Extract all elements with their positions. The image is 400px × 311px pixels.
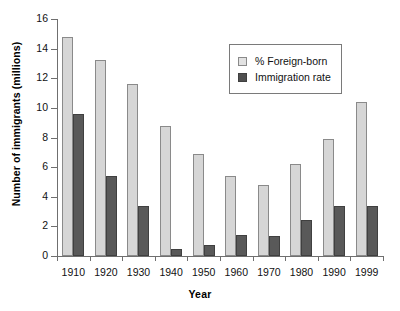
bar-group: [90, 19, 123, 256]
bar-immigration-rate: [138, 206, 149, 256]
bar-immigration-rate: [334, 206, 345, 256]
legend-item-foreign-born: % Foreign-born: [238, 55, 331, 67]
x-tick-mark: [350, 256, 351, 261]
bar-foreign-born: [95, 60, 106, 256]
bar-group: [57, 19, 90, 256]
legend-item-immigration-rate: Immigration rate: [238, 71, 331, 83]
legend-label-immigration-rate: Immigration rate: [255, 71, 331, 83]
y-tick-label: 14: [18, 43, 48, 53]
bar-group: [350, 19, 383, 256]
y-tick-label: 12: [18, 72, 48, 82]
bar-immigration-rate: [106, 176, 117, 256]
bar-immigration-rate: [204, 245, 215, 256]
x-tick-mark: [220, 256, 221, 261]
bar-foreign-born: [160, 126, 171, 256]
y-tick-label: 8: [18, 132, 48, 142]
legend-swatch-immigration-rate: [238, 73, 247, 82]
legend-swatch-foreign-born: [238, 57, 247, 66]
y-tick-label: 16: [18, 13, 48, 23]
bar-group: [187, 19, 220, 256]
x-tick-mark: [318, 256, 319, 261]
y-tick-label: 4: [18, 191, 48, 201]
x-tick-mark: [90, 256, 91, 261]
chart-figure: Number of immigrants (millions) 02468101…: [0, 0, 400, 311]
x-axis-title: Year: [0, 288, 400, 300]
bar-foreign-born: [258, 185, 269, 256]
x-tick-mark: [383, 256, 384, 261]
y-tick-label: 0: [18, 250, 48, 260]
y-tick-label: 2: [18, 220, 48, 230]
bar-foreign-born: [193, 154, 204, 256]
bar-immigration-rate: [236, 235, 247, 256]
bar-foreign-born: [127, 84, 138, 256]
x-tick-mark: [253, 256, 254, 261]
bar-immigration-rate: [301, 220, 312, 256]
x-tick-mark: [122, 256, 123, 261]
bar-immigration-rate: [171, 249, 182, 256]
y-tick-label: 6: [18, 161, 48, 171]
bar-immigration-rate: [269, 236, 280, 256]
bar-foreign-born: [356, 102, 367, 256]
x-tick-mark: [187, 256, 188, 261]
bar-immigration-rate: [73, 114, 84, 256]
bar-group: [155, 19, 188, 256]
y-tick-label: 10: [18, 102, 48, 112]
x-tick-mark: [57, 256, 58, 261]
x-tick-mark: [285, 256, 286, 261]
bar-immigration-rate: [367, 206, 378, 256]
bar-foreign-born: [290, 164, 301, 256]
bar-group: [122, 19, 155, 256]
x-tick-label: 1999: [347, 266, 387, 278]
bar-foreign-born: [62, 37, 73, 256]
legend-label-foreign-born: % Foreign-born: [255, 55, 327, 67]
chart-legend: % Foreign-born Immigration rate: [229, 44, 342, 94]
x-tick-mark: [155, 256, 156, 261]
bar-foreign-born: [323, 139, 334, 256]
bar-foreign-born: [225, 176, 236, 256]
